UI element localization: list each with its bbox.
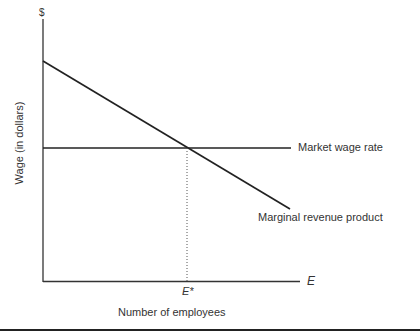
- mrp-line: [43, 61, 290, 209]
- y-axis-label: Wage (in dollars): [13, 88, 25, 198]
- mrp-label: Marginal revenue product: [258, 211, 383, 223]
- y-axis-symbol: $: [39, 7, 45, 18]
- chart-canvas: [0, 0, 420, 335]
- equilibrium-label: E*: [182, 285, 194, 297]
- x-axis-label: Number of employees: [118, 306, 226, 318]
- market-wage-label: Market wage rate: [298, 141, 383, 153]
- x-axis-symbol: E: [307, 274, 315, 288]
